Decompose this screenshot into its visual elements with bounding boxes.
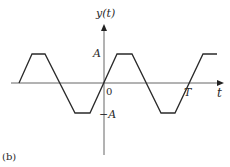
period-label: T <box>184 87 191 98</box>
waveform-plot <box>0 0 230 167</box>
trapezoidal-waveform-figure: y(t) A −A 0 T t (b) <box>0 0 230 167</box>
amplitude-positive-label: A <box>93 48 101 59</box>
origin-label: 0 <box>106 87 112 97</box>
amplitude-negative-label: −A <box>99 109 116 120</box>
y-axis-arrow-icon <box>101 24 107 31</box>
x-axis-label: t <box>217 87 222 99</box>
y-axis-label: y(t) <box>96 8 115 19</box>
panel-label: (b) <box>2 152 16 162</box>
